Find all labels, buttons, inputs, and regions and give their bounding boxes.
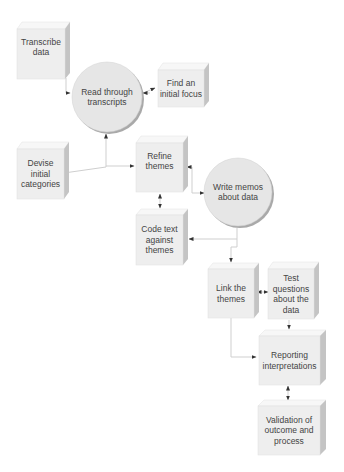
label-refine-themes: Refine themes (136, 143, 183, 179)
flowchart-diagram: Transcribe data Read through transcripts… (0, 0, 344, 472)
label-write-memos: Write memos about data (204, 158, 272, 226)
label-transcribe-data: Transcribe data (17, 29, 65, 65)
label-reporting-interpretations: Reporting interpretations (259, 336, 320, 385)
edge-memos-codetext (189, 228, 237, 239)
edge-memos-link (231, 239, 237, 262)
edge-refine-devise (64, 167, 106, 173)
label-validation: Validation of outcome and process (258, 406, 320, 455)
label-read-through-transcripts: Read through transcripts (72, 62, 142, 132)
label-code-text-against-themes: Code text against themes (136, 215, 183, 265)
edge-link-reporting (231, 318, 256, 357)
label-devise-initial-categories: Devise initial categories (17, 149, 64, 199)
label-find-initial-focus: Find an initial focus (158, 70, 204, 107)
label-test-questions: Test questions about the data (268, 269, 314, 319)
label-link-the-themes: Link the themes (208, 269, 254, 318)
edge-transcribe-read (66, 78, 70, 93)
edge-read-findfocus (143, 88, 155, 93)
